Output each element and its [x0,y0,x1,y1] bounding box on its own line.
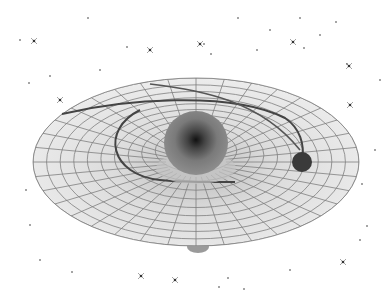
star-icon [140,275,143,278]
star-icon [39,259,41,261]
star-icon [99,69,101,71]
star-icon [299,17,301,19]
star-icon [59,99,62,102]
star-icon [71,271,73,273]
star-icon [29,224,31,226]
star-icon [49,75,51,77]
star-icon [237,17,239,19]
star-icon [199,43,202,46]
central-mass [164,111,228,175]
orbiting-body [292,152,312,172]
star-icon [218,286,220,288]
star-icon [203,43,205,45]
star-icon [292,41,295,44]
star-icon [256,49,258,51]
star-icon [366,225,368,227]
star-icon [348,65,351,68]
star-icon [210,53,212,55]
star-icon [269,29,271,31]
star-icon [25,189,27,191]
star-icon [361,183,363,185]
star-icon [243,288,245,290]
star-icon [227,277,229,279]
star-icon [33,40,36,43]
star-icon [319,34,321,36]
star-icon [28,82,30,84]
star-icon [374,149,376,151]
star-icon [174,279,177,282]
star-icon [342,261,345,264]
star-icon [379,79,381,81]
star-icon [303,47,305,49]
star-icon [19,39,21,41]
star-icon [87,17,89,19]
star-icon [359,239,361,241]
star-icon [335,21,337,23]
star-icon [289,269,291,271]
gravity-well-illustration [0,0,392,308]
star-icon [349,104,352,107]
star-icon [149,49,152,52]
star-icon [126,46,128,48]
